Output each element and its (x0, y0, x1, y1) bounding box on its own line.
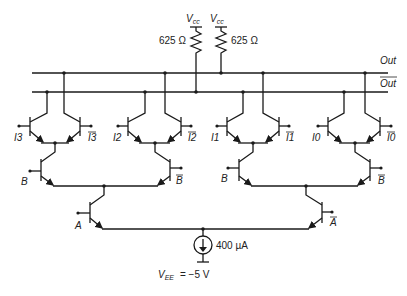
load-resistor-right (215, 27, 227, 75)
vcc-label-left: Vcc (186, 13, 200, 25)
b-select-pair-left (28, 143, 182, 188)
select-b-bar-left: B (176, 175, 183, 186)
vcc-label-right: Vcc (210, 13, 224, 25)
input-i2-bar: I2 (188, 132, 197, 143)
select-b-right: B (221, 173, 228, 184)
out-bar-label: Out (380, 78, 397, 89)
input-i3: I3 (14, 132, 23, 143)
current-source (194, 229, 212, 262)
diff-pair-2 (116, 71, 192, 145)
input-i1: I1 (211, 132, 219, 143)
input-i0: I0 (312, 132, 321, 143)
r-left-value: 625 Ω (159, 35, 186, 46)
vee-label: VEE (158, 269, 174, 281)
input-i1-bar: I1 (286, 132, 294, 143)
input-i2: I2 (113, 132, 122, 143)
ecl-mux-schematic: Vcc Vcc 625 Ω 625 Ω Out Out I3 I3 I2 I2 … (0, 0, 407, 296)
diff-pair-3 (17, 71, 92, 145)
input-i3-bar: I3 (88, 132, 97, 143)
b-select-pair-right (226, 143, 382, 188)
a-select-pair (76, 186, 333, 231)
select-a: A (74, 220, 82, 231)
current-value: 400 µA (216, 240, 248, 251)
select-a-bar: A (329, 217, 337, 228)
out-label: Out (380, 55, 397, 66)
diff-pair-1 (215, 71, 290, 145)
vee-value: = −5 V (180, 269, 210, 280)
input-i0-bar: I0 (387, 132, 396, 143)
select-b-left: B (21, 176, 28, 187)
load-resistor-left (190, 27, 202, 94)
r-right-value: 625 Ω (231, 35, 258, 46)
select-b-bar-right: B (378, 175, 385, 186)
